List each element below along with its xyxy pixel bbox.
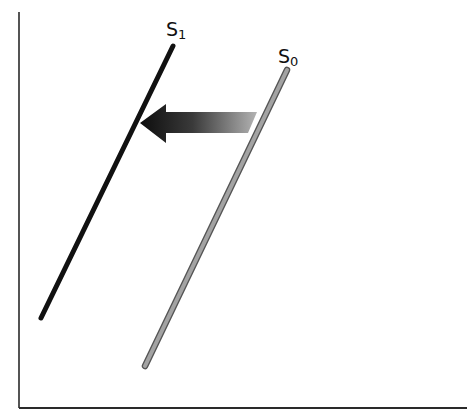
- label-s0-main: S: [278, 45, 290, 67]
- label-s0: S0: [278, 47, 298, 68]
- label-s1-main: S: [166, 18, 178, 40]
- supply-curve-s1: [41, 46, 173, 318]
- shift-left-arrow-icon: [140, 104, 257, 143]
- supply-shift-diagram: [0, 0, 475, 411]
- label-s1: S1: [166, 20, 186, 41]
- label-s1-subscript: 1: [178, 27, 186, 42]
- label-s0-subscript: 0: [290, 54, 298, 69]
